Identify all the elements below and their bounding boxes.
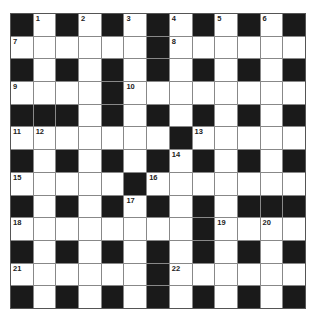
answer-cell[interactable] xyxy=(215,37,237,59)
answer-cell[interactable] xyxy=(215,127,237,149)
answer-cell[interactable] xyxy=(283,264,305,286)
answer-cell[interactable]: 14 xyxy=(170,150,192,172)
answer-cell[interactable] xyxy=(79,59,101,81)
answer-cell[interactable] xyxy=(102,37,124,59)
answer-cell[interactable] xyxy=(215,59,237,81)
answer-cell[interactable] xyxy=(34,286,56,308)
answer-cell[interactable]: 16 xyxy=(147,173,169,195)
answer-cell[interactable] xyxy=(261,286,283,308)
answer-cell[interactable] xyxy=(170,173,192,195)
answer-cell[interactable]: 12 xyxy=(34,127,56,149)
answer-cell[interactable] xyxy=(34,241,56,263)
answer-cell[interactable] xyxy=(193,264,215,286)
answer-cell[interactable] xyxy=(124,105,146,127)
answer-cell[interactable]: 4 xyxy=(170,14,192,36)
answer-cell[interactable]: 6 xyxy=(261,14,283,36)
answer-cell[interactable]: 20 xyxy=(261,218,283,240)
answer-cell[interactable] xyxy=(102,173,124,195)
answer-cell[interactable] xyxy=(79,196,101,218)
answer-cell[interactable] xyxy=(34,218,56,240)
answer-cell[interactable]: 2 xyxy=(79,14,101,36)
answer-cell[interactable]: 22 xyxy=(170,264,192,286)
answer-cell[interactable] xyxy=(124,286,146,308)
answer-cell[interactable] xyxy=(79,264,101,286)
answer-cell[interactable] xyxy=(124,127,146,149)
answer-cell[interactable] xyxy=(238,37,260,59)
answer-cell[interactable] xyxy=(102,218,124,240)
answer-cell[interactable] xyxy=(261,150,283,172)
answer-cell[interactable] xyxy=(147,82,169,104)
answer-cell[interactable] xyxy=(34,173,56,195)
answer-cell[interactable] xyxy=(193,173,215,195)
answer-cell[interactable] xyxy=(79,286,101,308)
answer-cell[interactable] xyxy=(170,105,192,127)
answer-cell[interactable] xyxy=(261,105,283,127)
answer-cell[interactable] xyxy=(238,264,260,286)
answer-cell[interactable] xyxy=(193,37,215,59)
answer-cell[interactable] xyxy=(56,218,78,240)
answer-cell[interactable] xyxy=(79,105,101,127)
answer-cell[interactable]: 8 xyxy=(170,37,192,59)
answer-cell[interactable]: 15 xyxy=(11,173,33,195)
answer-cell[interactable] xyxy=(170,59,192,81)
answer-cell[interactable] xyxy=(34,150,56,172)
answer-cell[interactable] xyxy=(170,286,192,308)
answer-cell[interactable] xyxy=(215,241,237,263)
answer-cell[interactable] xyxy=(124,59,146,81)
answer-cell[interactable] xyxy=(34,37,56,59)
answer-cell[interactable] xyxy=(79,218,101,240)
answer-cell[interactable] xyxy=(56,173,78,195)
answer-cell[interactable]: 1 xyxy=(34,14,56,36)
answer-cell[interactable] xyxy=(56,127,78,149)
answer-cell[interactable]: 18 xyxy=(11,218,33,240)
answer-cell[interactable] xyxy=(124,241,146,263)
answer-cell[interactable]: 17 xyxy=(124,196,146,218)
answer-cell[interactable]: 3 xyxy=(124,14,146,36)
answer-cell[interactable]: 7 xyxy=(11,37,33,59)
answer-cell[interactable] xyxy=(261,173,283,195)
answer-cell[interactable]: 19 xyxy=(215,218,237,240)
answer-cell[interactable] xyxy=(261,264,283,286)
answer-cell[interactable] xyxy=(102,264,124,286)
answer-cell[interactable] xyxy=(238,82,260,104)
answer-cell[interactable] xyxy=(170,218,192,240)
answer-cell[interactable] xyxy=(215,105,237,127)
answer-cell[interactable] xyxy=(215,173,237,195)
answer-cell[interactable] xyxy=(193,82,215,104)
answer-cell[interactable] xyxy=(215,264,237,286)
answer-cell[interactable] xyxy=(238,173,260,195)
answer-cell[interactable] xyxy=(261,82,283,104)
answer-cell[interactable] xyxy=(34,264,56,286)
answer-cell[interactable] xyxy=(215,196,237,218)
answer-cell[interactable] xyxy=(79,173,101,195)
answer-cell[interactable]: 9 xyxy=(11,82,33,104)
answer-cell[interactable] xyxy=(283,82,305,104)
answer-cell[interactable] xyxy=(79,150,101,172)
answer-cell[interactable] xyxy=(34,196,56,218)
answer-cell[interactable] xyxy=(170,196,192,218)
answer-cell[interactable] xyxy=(34,59,56,81)
answer-cell[interactable]: 13 xyxy=(193,127,215,149)
answer-cell[interactable]: 21 xyxy=(11,264,33,286)
answer-cell[interactable] xyxy=(261,37,283,59)
answer-cell[interactable] xyxy=(56,37,78,59)
answer-cell[interactable] xyxy=(56,82,78,104)
answer-cell[interactable] xyxy=(261,59,283,81)
answer-cell[interactable] xyxy=(238,127,260,149)
answer-cell[interactable]: 10 xyxy=(124,82,146,104)
answer-cell[interactable] xyxy=(124,37,146,59)
answer-cell[interactable] xyxy=(215,150,237,172)
answer-cell[interactable] xyxy=(170,241,192,263)
answer-cell[interactable] xyxy=(215,286,237,308)
answer-cell[interactable] xyxy=(170,82,192,104)
answer-cell[interactable] xyxy=(79,37,101,59)
answer-cell[interactable] xyxy=(261,127,283,149)
answer-cell[interactable]: 11 xyxy=(11,127,33,149)
answer-cell[interactable] xyxy=(79,127,101,149)
answer-cell[interactable] xyxy=(79,241,101,263)
answer-cell[interactable] xyxy=(124,218,146,240)
answer-cell[interactable] xyxy=(147,218,169,240)
answer-cell[interactable] xyxy=(283,127,305,149)
answer-cell[interactable] xyxy=(124,150,146,172)
answer-cell[interactable] xyxy=(147,127,169,149)
